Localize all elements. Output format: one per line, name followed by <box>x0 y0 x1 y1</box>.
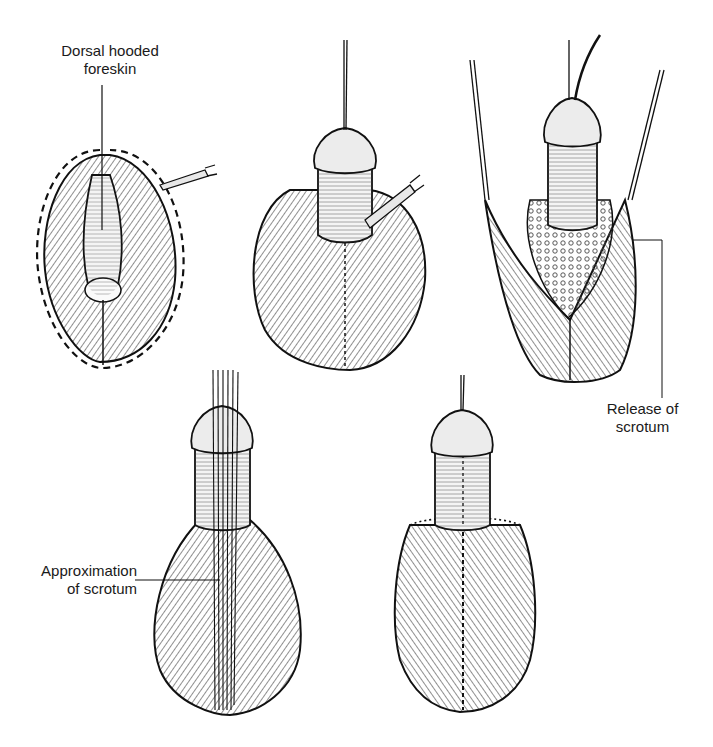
panel-3 <box>470 35 664 398</box>
panel-2 <box>254 40 426 370</box>
illustration <box>0 0 713 747</box>
panel-5 <box>395 375 535 712</box>
label-release-of-scrotum: Release of scrotum <box>585 400 700 436</box>
label-dorsal-hooded-foreskin: Dorsal hooded foreskin <box>40 42 180 78</box>
surgical-diagram: Dorsal hooded foreskin Release of scrotu… <box>0 0 713 747</box>
panel-4 <box>135 370 301 715</box>
panel-1 <box>37 85 217 368</box>
label-approximation-of-scrotum: Approximation of scrotum <box>12 562 137 598</box>
